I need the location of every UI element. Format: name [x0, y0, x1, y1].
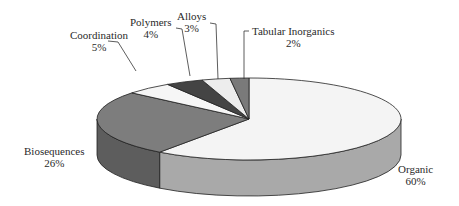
label-coordination-name: Coordination — [70, 29, 128, 41]
label-polymers-pct: 4% — [130, 28, 172, 40]
label-tabular-pct: 2% — [252, 37, 334, 49]
leader-line-alloys — [210, 23, 218, 79]
label-alloys-name: Alloys — [177, 10, 206, 22]
label-tabular-inorganics: Tabular Inorganics 2% — [252, 25, 334, 49]
leader-line-polymers — [176, 28, 190, 76]
label-biosequences-name: Biosequences — [24, 145, 84, 157]
label-organic-pct: 60% — [398, 175, 433, 187]
leader-line-tabular — [244, 31, 249, 79]
pie-top-slices — [97, 78, 401, 160]
pie-chart — [0, 0, 459, 206]
label-biosequences-pct: 26% — [24, 157, 84, 169]
label-alloys: Alloys 3% — [177, 10, 206, 34]
label-polymers-name: Polymers — [130, 16, 172, 28]
label-organic-name: Organic — [398, 163, 433, 175]
label-tabular-name: Tabular Inorganics — [252, 25, 334, 37]
label-polymers: Polymers 4% — [130, 16, 172, 40]
label-alloys-pct: 3% — [177, 22, 206, 34]
label-coordination-pct: 5% — [70, 41, 128, 53]
label-biosequences: Biosequences 26% — [24, 145, 84, 169]
label-organic: Organic 60% — [398, 163, 433, 187]
label-coordination: Coordination 5% — [70, 29, 128, 53]
